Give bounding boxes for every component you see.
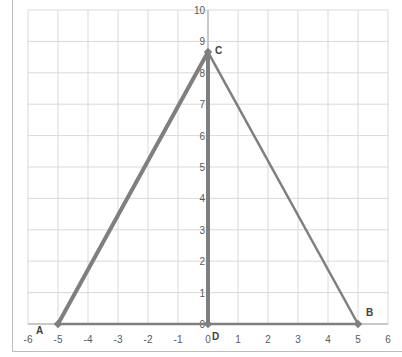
x-tick-label: -6 xyxy=(24,334,33,345)
y-tick-label: 5 xyxy=(199,162,205,173)
x-tick-label: 0 xyxy=(205,334,211,345)
x-tick-label: -2 xyxy=(144,334,153,345)
x-tick-label: 6 xyxy=(385,334,391,345)
x-tick-label: 3 xyxy=(295,334,301,345)
y-tick-label: 1 xyxy=(199,288,205,299)
y-tick-label: 2 xyxy=(199,256,205,267)
x-tick-label: 5 xyxy=(355,334,361,345)
point-marker-d xyxy=(204,320,212,328)
x-tick-label: -4 xyxy=(84,334,93,345)
y-tick-label: 9 xyxy=(199,36,205,47)
point-label-c: C xyxy=(215,45,222,56)
segment-ac xyxy=(58,52,208,324)
x-tick-label: -3 xyxy=(114,334,123,345)
point-label-b: B xyxy=(366,307,373,318)
x-tick-label: -1 xyxy=(174,334,183,345)
point-label-d: D xyxy=(212,331,219,342)
x-tick-label: 4 xyxy=(325,334,331,345)
y-tick-label: 4 xyxy=(199,193,205,204)
x-tick-label: 1 xyxy=(235,334,241,345)
y-tick-label: 6 xyxy=(199,131,205,142)
y-tick-label: 3 xyxy=(199,225,205,236)
y-tick-label: 10 xyxy=(194,5,206,16)
x-tick-label: 2 xyxy=(265,334,271,345)
triangle-chart: -6-5-4-3-2-10123456012345678910ABCD xyxy=(0,0,402,357)
point-label-a: A xyxy=(36,325,43,336)
segment-cb xyxy=(208,52,358,324)
y-tick-label: 7 xyxy=(199,99,205,110)
x-tick-label: -5 xyxy=(54,334,63,345)
